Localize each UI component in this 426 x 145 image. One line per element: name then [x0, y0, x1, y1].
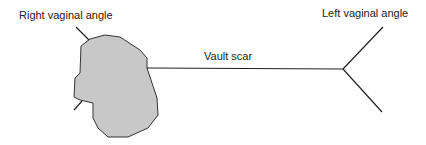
- left-angle-upper-line: [343, 27, 383, 69]
- vault-diagram: [0, 0, 426, 145]
- right-angle-upper-line: [76, 27, 89, 40]
- right-angle-lower-line: [74, 101, 82, 110]
- vault-scar-label: Vault scar: [204, 50, 252, 62]
- granulation-mass: [74, 35, 158, 137]
- left-vaginal-angle-label: Left vaginal angle: [322, 7, 408, 19]
- left-angle-lower-line: [343, 69, 382, 112]
- right-vaginal-angle-label: Right vaginal angle: [19, 9, 113, 21]
- vault-scar-line: [147, 68, 343, 69]
